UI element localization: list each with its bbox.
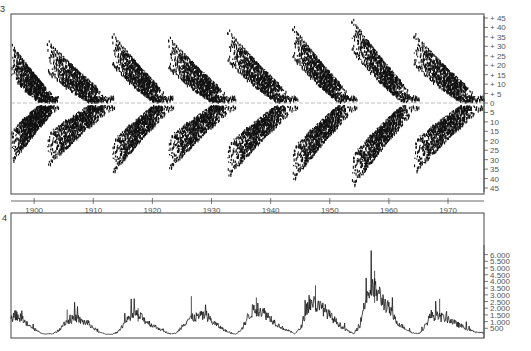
butterfly-mark bbox=[72, 125, 73, 126]
butterfly-mark bbox=[128, 132, 129, 135]
butterfly-mark bbox=[336, 118, 337, 121]
butterfly-mark bbox=[422, 146, 423, 149]
butterfly-mark bbox=[177, 74, 178, 75]
butterfly-mark bbox=[92, 111, 93, 113]
butterfly-mark bbox=[419, 66, 420, 68]
butterfly-mark bbox=[443, 75, 444, 77]
butterfly-mark bbox=[146, 114, 147, 116]
butterfly-mark bbox=[393, 131, 394, 133]
butterfly-mark bbox=[308, 154, 309, 157]
butterfly-mark bbox=[366, 61, 367, 64]
butterfly-mark bbox=[138, 125, 139, 127]
butterfly-mark bbox=[153, 125, 154, 128]
butterfly-mark bbox=[12, 67, 13, 70]
butterfly-mark bbox=[183, 71, 184, 73]
butterfly-mark bbox=[134, 138, 135, 139]
butterfly-mark bbox=[183, 60, 184, 62]
butterfly-mark bbox=[371, 162, 372, 164]
butterfly-mark bbox=[182, 56, 183, 59]
butterfly-mark bbox=[55, 131, 56, 133]
butterfly-mark bbox=[134, 130, 135, 133]
butterfly-mark bbox=[292, 96, 293, 99]
butterfly-mark bbox=[240, 45, 241, 47]
butterfly-mark bbox=[428, 68, 429, 70]
butterfly-mark bbox=[331, 126, 332, 127]
butterfly-mark bbox=[324, 75, 325, 76]
butterfly-mark bbox=[428, 143, 429, 146]
butterfly-mark bbox=[29, 137, 30, 139]
butterfly-mark bbox=[210, 79, 211, 81]
butterfly-mark bbox=[53, 47, 54, 50]
butterfly-mark bbox=[454, 96, 455, 98]
butterfly-mark bbox=[61, 125, 62, 127]
butterfly-mark bbox=[358, 58, 359, 60]
butterfly-mark bbox=[182, 65, 183, 67]
butterfly-mark bbox=[178, 75, 179, 78]
butterfly-mark bbox=[426, 47, 427, 48]
butterfly-mark bbox=[237, 152, 238, 154]
butterfly-mark bbox=[270, 115, 271, 116]
butterfly-mark bbox=[154, 91, 155, 93]
butterfly-mark bbox=[436, 72, 437, 73]
butterfly-mark bbox=[112, 154, 113, 155]
butterfly-mark bbox=[137, 84, 138, 87]
butterfly-mark bbox=[130, 72, 131, 75]
butterfly-mark bbox=[41, 113, 42, 116]
butterfly-mark bbox=[86, 116, 87, 118]
butterfly-y-tick-label: + 35 bbox=[490, 33, 506, 42]
butterfly-mark bbox=[382, 147, 383, 150]
butterfly-mark bbox=[45, 117, 46, 119]
butterfly-mark bbox=[355, 165, 356, 168]
butterfly-mark bbox=[457, 126, 458, 128]
butterfly-mark bbox=[311, 145, 312, 147]
butterfly-mark bbox=[56, 59, 57, 61]
butterfly-mark bbox=[176, 73, 177, 76]
butterfly-mark bbox=[115, 47, 116, 50]
butterfly-mark bbox=[319, 77, 320, 79]
butterfly-mark bbox=[346, 116, 347, 119]
butterfly-mark bbox=[172, 50, 173, 53]
butterfly-mark bbox=[395, 86, 396, 88]
butterfly-mark bbox=[225, 111, 226, 114]
butterfly-mark bbox=[324, 122, 325, 125]
butterfly-mark bbox=[135, 129, 136, 130]
butterfly-mark bbox=[202, 127, 203, 129]
butterfly-mark bbox=[369, 59, 370, 60]
butterfly-mark bbox=[25, 145, 26, 147]
butterfly-mark bbox=[59, 62, 60, 64]
butterfly-mark bbox=[336, 123, 337, 125]
butterfly-mark bbox=[190, 129, 191, 132]
butterfly-mark bbox=[125, 151, 126, 152]
butterfly-mark bbox=[365, 51, 366, 53]
butterfly-mark bbox=[302, 53, 303, 55]
butterfly-mark bbox=[383, 126, 384, 128]
butterfly-mark bbox=[174, 43, 175, 46]
butterfly-mark bbox=[231, 34, 232, 36]
butterfly-mark bbox=[100, 97, 101, 100]
butterfly-mark bbox=[471, 109, 472, 110]
butterfly-mark bbox=[83, 108, 84, 110]
butterfly-mark bbox=[331, 93, 332, 95]
butterfly-mark bbox=[44, 97, 45, 98]
butterfly-mark bbox=[453, 117, 454, 118]
butterfly-mark bbox=[298, 33, 299, 36]
butterfly-mark bbox=[418, 40, 419, 42]
butterfly-mark bbox=[28, 132, 29, 133]
butterfly-mark bbox=[86, 91, 87, 94]
butterfly-mark bbox=[31, 74, 32, 76]
butterfly-mark bbox=[44, 121, 45, 122]
butterfly-mark bbox=[233, 162, 234, 163]
butterfly-mark bbox=[265, 74, 266, 77]
butterfly-mark bbox=[62, 148, 63, 150]
butterfly-mark bbox=[224, 92, 225, 95]
butterfly-mark bbox=[358, 175, 359, 178]
butterfly-mark bbox=[367, 151, 368, 152]
butterfly-mark bbox=[235, 62, 236, 64]
butterfly-mark bbox=[216, 84, 217, 86]
butterfly-mark bbox=[172, 135, 173, 138]
butterfly-mark bbox=[330, 112, 331, 115]
butterfly-mark bbox=[158, 110, 159, 112]
butterfly-mark bbox=[458, 116, 459, 118]
butterfly-mark bbox=[31, 120, 32, 121]
butterfly-mark bbox=[210, 100, 211, 101]
